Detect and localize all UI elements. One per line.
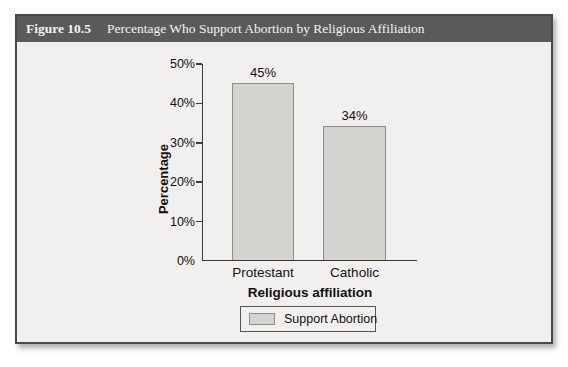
y-tick-label: 50% xyxy=(151,57,195,71)
legend-box: Support Abortion xyxy=(240,306,376,332)
y-tick-mark xyxy=(196,181,202,183)
figure-header: Figure 10.5 Percentage Who Support Abort… xyxy=(17,16,551,42)
y-tick-label: 40% xyxy=(151,96,195,110)
x-axis-title: Religious affiliation xyxy=(248,285,373,300)
y-tick-mark xyxy=(196,103,202,105)
bar-protestant xyxy=(232,83,294,260)
y-tick-mark xyxy=(196,142,202,144)
y-tick-label: 0% xyxy=(151,254,195,268)
legend-entry-label: Support Abortion xyxy=(284,312,377,326)
legend-swatch-icon xyxy=(249,313,275,325)
y-tick-label: 30% xyxy=(151,136,195,150)
bar-value-label: 34% xyxy=(323,108,386,124)
figure-card: Figure 10.5 Percentage Who Support Abort… xyxy=(15,14,553,344)
y-tick-mark xyxy=(196,63,202,65)
figure-number-label: Figure 10.5 xyxy=(26,21,91,37)
plot-area: Religious affiliation 0%10%20%30%40%50%4… xyxy=(202,64,417,261)
x-category-label: Protestant xyxy=(232,265,294,280)
bar-catholic xyxy=(323,126,386,260)
y-tick-label: 10% xyxy=(151,215,195,229)
y-tick-label: 20% xyxy=(151,175,195,189)
y-tick-mark xyxy=(196,221,202,223)
bar-value-label: 45% xyxy=(232,65,294,81)
x-category-label: Catholic xyxy=(330,265,379,280)
figure-title: Percentage Who Support Abortion by Relig… xyxy=(107,21,424,37)
